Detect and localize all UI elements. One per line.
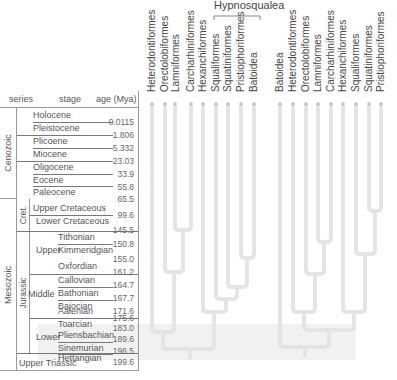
clade-bracket — [214, 16, 260, 20]
phylogenetic-trees — [0, 0, 397, 380]
left-tree — [152, 104, 254, 358]
right-tree — [280, 104, 381, 356]
